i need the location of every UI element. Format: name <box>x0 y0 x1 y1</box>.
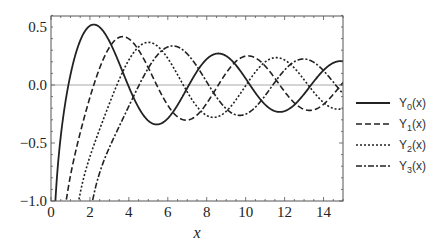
legend-label: Y0(x) <box>399 96 426 112</box>
x-tick-label: 0 <box>47 204 55 220</box>
y-tick-label: 0.5 <box>28 19 47 35</box>
legend-item-y3: Y3(x) <box>356 159 426 175</box>
y-tick-label: −0.5 <box>20 135 47 151</box>
x-tick-label: 8 <box>203 204 211 220</box>
x-tick-label: 6 <box>164 204 172 220</box>
legend-item-y2: Y2(x) <box>356 138 426 154</box>
legend-label: Y1(x) <box>399 117 426 133</box>
x-tick-label: 10 <box>238 204 253 220</box>
y-tick-label: 0.0 <box>28 77 47 93</box>
plot-background <box>51 16 343 201</box>
legend-item-y1: Y1(x) <box>356 117 426 133</box>
legend-label: Y3(x) <box>399 159 426 175</box>
plot-area <box>51 15 343 235</box>
legend: Y0(x)Y1(x)Y2(x)Y3(x) <box>356 96 426 175</box>
x-axis-label: x <box>192 224 200 241</box>
bessel-y-chart: 02468101214 −1.0−0.50.00.5 x Y0(x)Y1(x)Y… <box>0 0 442 245</box>
x-tick-label: 4 <box>125 204 133 220</box>
legend-item-y0: Y0(x) <box>356 96 426 112</box>
y-tick-label: −1.0 <box>20 193 47 209</box>
x-tick-labels: 02468101214 <box>47 204 331 220</box>
y-tick-labels: −1.0−0.50.00.5 <box>20 19 47 209</box>
x-tick-label: 14 <box>316 204 332 220</box>
x-tick-label: 2 <box>86 204 94 220</box>
legend-label: Y2(x) <box>399 138 426 154</box>
x-tick-label: 12 <box>277 204 292 220</box>
